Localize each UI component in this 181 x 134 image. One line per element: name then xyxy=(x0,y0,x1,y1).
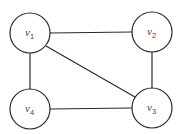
edge-v1-v3 xyxy=(46,46,135,97)
edge-v4-v3 xyxy=(50,108,132,109)
edge-v1-v2 xyxy=(50,32,132,33)
node-v4: v4 xyxy=(10,89,50,129)
edges xyxy=(30,32,152,109)
node-v3: v3 xyxy=(132,88,172,128)
node-v2: v2 xyxy=(132,12,172,52)
graph-diagram: v1 v2 v3 v4 xyxy=(0,0,181,134)
node-v1: v1 xyxy=(10,13,50,53)
